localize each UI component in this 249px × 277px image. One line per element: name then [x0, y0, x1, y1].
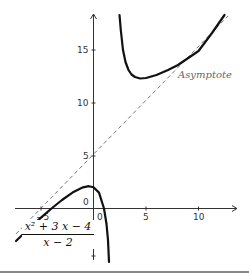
y-tick-label: 15 [77, 45, 88, 55]
y-tick-label: 10 [77, 98, 89, 108]
x-tick-label: 5 [143, 212, 149, 222]
x-tick-label: 0 [97, 212, 103, 222]
bottom-divider [0, 271, 249, 273]
function-formula-label: x² + 3 x − 4 x − 2 [22, 220, 94, 249]
y-tick-label: 5 [83, 151, 89, 161]
asymptote-label: Asymptote [177, 69, 232, 80]
formula-numerator: x² + 3 x − 4 [22, 220, 94, 235]
y-tick-label: 0 [83, 197, 89, 207]
formula-denominator: x − 2 [22, 235, 94, 249]
x-tick-label: 10 [193, 212, 205, 222]
